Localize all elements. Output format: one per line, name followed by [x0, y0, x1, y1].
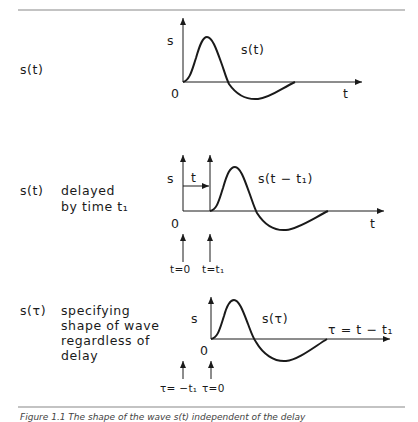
curve-label: s(t)	[241, 42, 265, 57]
marker-label-t1: t=t₁	[202, 262, 224, 277]
panel-delayed-left-label: s(t)	[20, 183, 44, 198]
origin-label: 0	[200, 343, 209, 358]
shape-waveform-curve	[211, 300, 327, 361]
x-axis-label: t	[343, 86, 349, 101]
panel-shape-desc-line2: shape of wave	[61, 318, 160, 333]
panel-original-left-label: s(t)	[20, 62, 44, 77]
origin-label: 0	[171, 86, 180, 101]
delay-label: t	[191, 170, 197, 185]
panel-original-plot	[183, 18, 362, 99]
x-axis-label: τ = t − t₁	[328, 322, 393, 337]
figure-caption: Figure 1.1 The shape of the wave s(t) in…	[20, 412, 305, 422]
y-axis-label: s	[167, 171, 174, 186]
marker-label-t0: t=0	[170, 262, 191, 277]
curve-label: s(τ)	[262, 311, 288, 326]
panel-shape-left-label: s(τ)	[20, 303, 46, 318]
marker-label-tau-neg: τ= −t₁	[160, 381, 197, 396]
panel-shape-desc-line3: regardless of	[61, 333, 150, 348]
panel-shape-desc-line1: specifying	[61, 303, 130, 318]
x-axis-label: t	[370, 216, 376, 231]
curve-label: s(t − t₁)	[258, 171, 313, 186]
panel-delayed-desc-line2: by time t₁	[61, 199, 128, 214]
y-axis-label: s	[191, 311, 198, 326]
panel-shape-desc-line4: delay	[61, 348, 98, 363]
origin-label: 0	[171, 216, 180, 231]
marker-label-tau0: τ=0	[202, 381, 225, 396]
waveform-curve	[183, 37, 295, 99]
y-axis-label: s	[167, 33, 174, 48]
panel-delayed-desc-line1: delayed	[61, 183, 115, 198]
panel-shape-plot	[183, 297, 390, 379]
